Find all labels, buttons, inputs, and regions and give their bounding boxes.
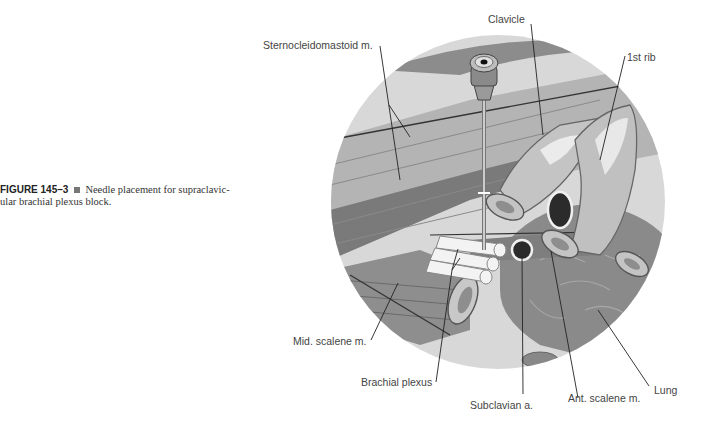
illustration-circle (320, 30, 680, 380)
label-subclavian: Subclavian a. (470, 399, 533, 411)
label-ant-scalene: Ant. scalene m. (568, 392, 640, 404)
label-mid-scalene: Mid. scalene m. (293, 335, 367, 347)
label-clavicle: Clavicle (488, 13, 525, 25)
label-brachial-plexus: Brachial plexus (361, 376, 432, 388)
label-lung: Lung (654, 384, 677, 396)
label-sternocleidomastoid: Sternocleidomastoid m. (263, 39, 373, 51)
subclavian-vein-shape (548, 192, 572, 228)
label-first-rib: 1st rib (627, 51, 656, 63)
